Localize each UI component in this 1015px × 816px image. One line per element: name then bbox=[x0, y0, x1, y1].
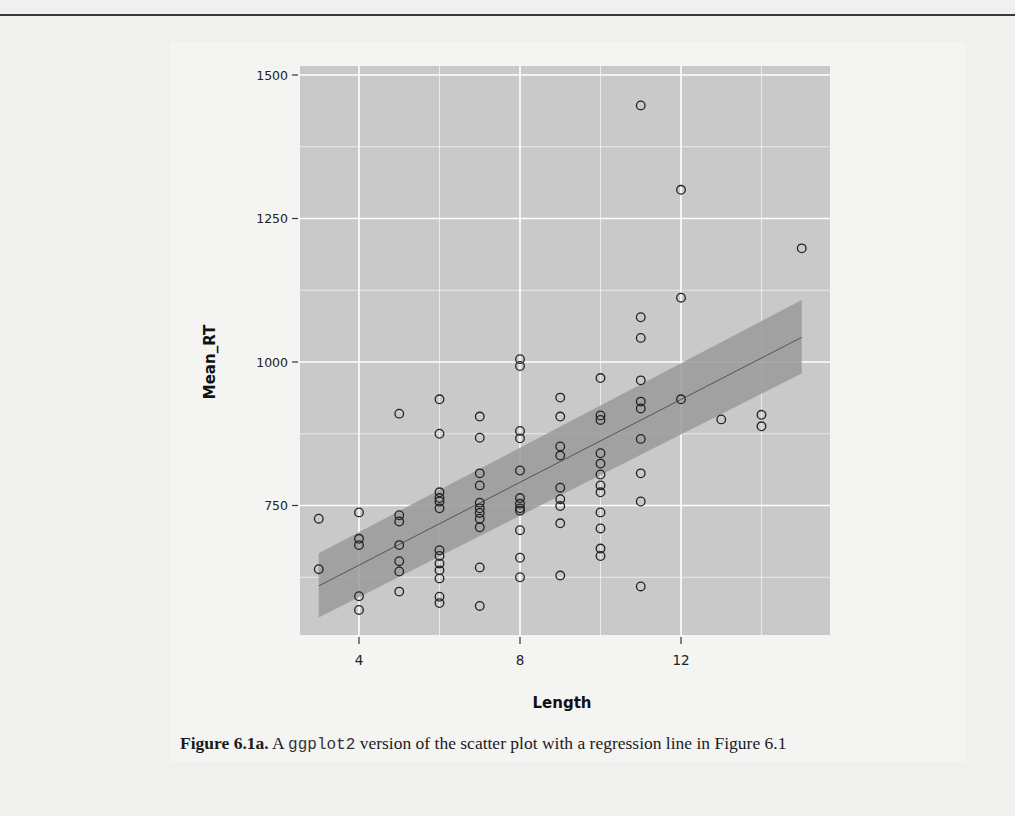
x-axis-label: Length bbox=[533, 694, 592, 712]
x-tick-label: 8 bbox=[516, 652, 525, 668]
y-axis: 750100012501500 bbox=[256, 68, 298, 514]
x-tick-label: 12 bbox=[672, 652, 689, 668]
caption-text-pre: A bbox=[269, 733, 288, 753]
y-axis-label: Mean_RT bbox=[201, 324, 219, 399]
scatter-chart: 750100012501500 4812 Mean_RT Length bbox=[0, 0, 1015, 816]
caption-label: Figure 6.1a. bbox=[180, 733, 269, 753]
x-tick-label: 4 bbox=[355, 652, 364, 668]
figure-caption: Figure 6.1a. A ggplot2 version of the sc… bbox=[180, 733, 786, 754]
x-axis: 4812 bbox=[355, 637, 690, 668]
y-tick-label: 1000 bbox=[256, 355, 288, 370]
y-tick-label: 750 bbox=[264, 498, 288, 513]
caption-code: ggplot2 bbox=[288, 736, 355, 754]
y-tick-label: 1500 bbox=[256, 68, 288, 83]
caption-text-post: version of the scatter plot with a regre… bbox=[355, 733, 786, 753]
y-tick-label: 1250 bbox=[256, 211, 288, 226]
